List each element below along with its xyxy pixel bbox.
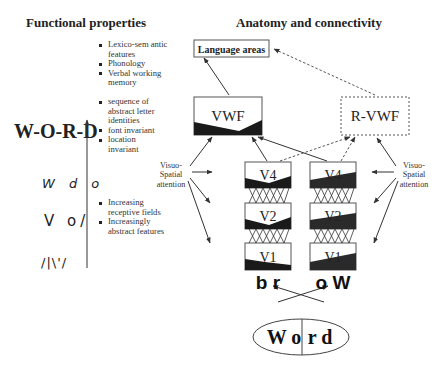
arrow-right-v4-to-vwf [258, 137, 327, 161]
language-areas-label: Language areas [198, 44, 265, 55]
word-right-half: r d [308, 326, 333, 348]
word-stimulus: W o r d [253, 319, 349, 355]
attention-arrow-left-vwf [190, 137, 212, 166]
left-v4-label: V4 [259, 168, 276, 183]
attention-arrow-left-v1 [188, 181, 210, 243]
r-vwf-label: R-VWF [351, 108, 399, 124]
dashed-arrow-left-v4-to-rvwf [280, 137, 350, 161]
word-left-half: W o [267, 326, 302, 348]
left-field-letters: b r [256, 272, 281, 293]
arrow-vwf-to-language [204, 58, 229, 95]
attention-arrow-left-v2 [190, 178, 210, 203]
vwf-label: VWF [211, 108, 244, 124]
attention-arrow-right-rvwf [377, 138, 396, 166]
right-v1-label: V1 [324, 250, 341, 265]
arrow-left-v4-to-vwf [252, 137, 267, 161]
attention-arrow-right-v2 [374, 178, 396, 203]
dashed-arrow-rvwf-to-language [274, 49, 375, 95]
left-v2-label: V2 [259, 209, 276, 224]
right-v2-label: V2 [324, 209, 341, 224]
right-field-letters: o W [316, 272, 351, 293]
right-v4-label: V4 [324, 168, 341, 183]
connectivity-diagram: Language areas VWF R-VWF V4 V2 V1 V4 V2 … [0, 0, 441, 367]
left-v1-label: V1 [259, 250, 276, 265]
attention-arrow-right-v1 [374, 181, 398, 243]
dashed-arrow-right-v4-to-rvwf [341, 137, 355, 161]
